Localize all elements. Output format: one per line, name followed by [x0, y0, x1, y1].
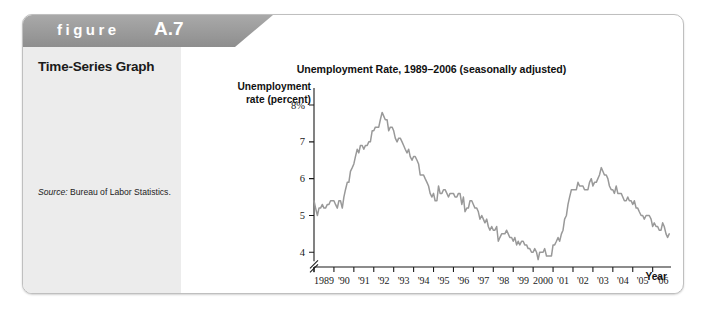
x-tick-label: '03 [597, 275, 609, 286]
x-tick-label: '99 [517, 275, 529, 286]
figure-header-band [23, 15, 683, 47]
x-tick-label: '90 [338, 275, 350, 286]
figure-card: figure A.7 Time-Series Graph Source: Bur… [22, 14, 684, 294]
chart-area: Unemployment Rate, 1989–2006 (seasonally… [181, 47, 682, 293]
x-tick-label: '93 [398, 275, 410, 286]
x-tick-label: 2000 [533, 275, 553, 286]
y-tick-label: 4 [300, 247, 306, 258]
x-tick-label: '92 [378, 275, 390, 286]
caption-source-text: Bureau of Labor Statistics. [70, 187, 171, 197]
caption-title: Time-Series Graph [38, 59, 174, 74]
caption-source-label: Source: [38, 187, 68, 197]
x-tick-label: '91 [358, 275, 370, 286]
figure-label: figure [57, 21, 120, 38]
y-tick-label: 8% [291, 100, 305, 111]
y-tick-label: 7 [300, 136, 305, 147]
x-tick-label: '02 [577, 275, 589, 286]
x-tick-label: '95 [438, 275, 450, 286]
x-tick-label: '98 [497, 275, 509, 286]
x-tick-label: '04 [617, 275, 629, 286]
x-tick-label: '97 [477, 275, 489, 286]
caption-panel: Time-Series Graph Source: Bureau of Labo… [23, 47, 182, 293]
x-tick-label: 1989 [314, 275, 334, 286]
x-tick-label: '06 [657, 275, 669, 286]
figure-number: A.7 [154, 18, 184, 40]
unemployment-series-line [314, 112, 669, 259]
x-tick-label: '05 [637, 275, 649, 286]
x-tick-label: '96 [458, 275, 470, 286]
y-tick-label: 5 [300, 210, 305, 221]
x-tick-label: '94 [418, 275, 430, 286]
caption-source: Source: Bureau of Labor Statistics. [38, 187, 178, 197]
y-tick-label: 6 [300, 173, 305, 184]
unemployment-line-plot: 8%76541989'90'91'92'93'94'95'96'97'98'99… [181, 47, 682, 293]
x-tick-label: '01 [557, 275, 569, 286]
